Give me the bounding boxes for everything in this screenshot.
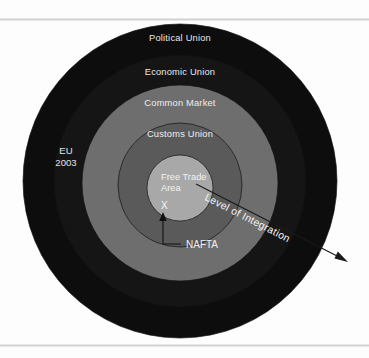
label-economic-union: Economic Union bbox=[145, 67, 216, 77]
label-eu-name: EU bbox=[59, 145, 72, 156]
label-nafta: NAFTA bbox=[186, 239, 218, 250]
marker-x-nafta-position: X bbox=[161, 200, 168, 211]
label-free-trade-line1: Free Trade bbox=[161, 172, 206, 182]
label-free-trade-line2: Area bbox=[161, 183, 181, 193]
label-eu-year: 2003 bbox=[55, 157, 76, 168]
diagram-canvas: Political Union Economic Union Common Ma… bbox=[0, 0, 369, 358]
concentric-integration-diagram: Political Union Economic Union Common Ma… bbox=[0, 0, 369, 358]
label-political-union: Political Union bbox=[149, 33, 211, 43]
label-common-market: Common Market bbox=[144, 98, 216, 108]
label-customs-union: Customs Union bbox=[147, 129, 213, 139]
